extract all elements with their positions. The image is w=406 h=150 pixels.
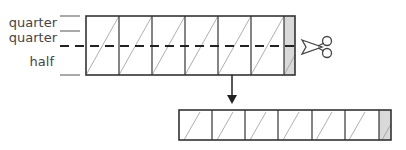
label-quarter-top: quarter — [9, 15, 58, 30]
folded-strip-diagram: quarter quarter half — [0, 0, 406, 150]
bottom-strip — [179, 110, 391, 140]
scissors-icon — [302, 37, 332, 58]
bottom-strip-end-tab — [379, 110, 391, 140]
label-half: half — [30, 54, 55, 69]
label-quarter-bottom: quarter — [9, 30, 58, 45]
arrow-down-icon — [227, 75, 237, 104]
